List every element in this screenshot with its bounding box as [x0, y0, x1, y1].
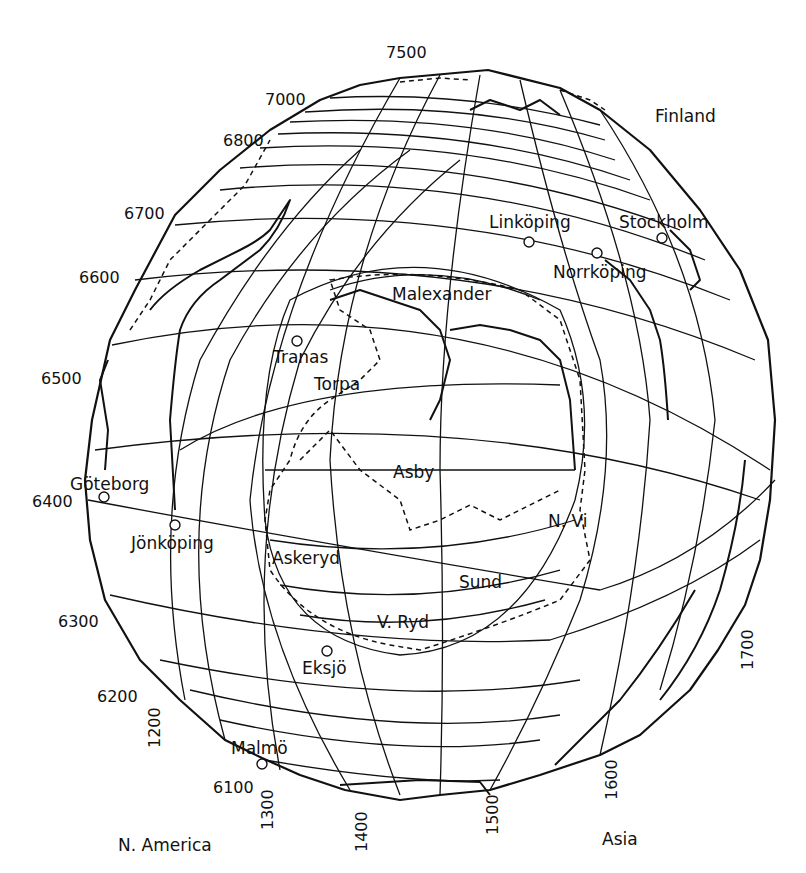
place-label-sund: Sund [459, 572, 502, 592]
town-marker-malmo [257, 759, 267, 769]
easting-label-1200: 1200 [145, 707, 164, 748]
place-label-stockholm: Stockholm [619, 212, 709, 232]
place-label-askeryd: Askeryd [272, 548, 340, 568]
place-label-jonkoping: Jönköping [130, 533, 214, 553]
place-label-torpa: Torpa [313, 374, 360, 394]
northing-label-6300: 6300 [58, 612, 99, 631]
northing-label-6800: 6800 [223, 131, 264, 150]
place-label-v-ryd: V. Ryd [377, 612, 429, 632]
town-marker-tranas [292, 336, 302, 346]
place-label-linkoping: Linköping [489, 212, 571, 232]
northing-label-6700: 6700 [124, 204, 165, 223]
place-label-malmo: Malmö [231, 738, 288, 758]
region-label-north-america: N. America [118, 835, 212, 855]
place-label-eksjo: Eksjö [302, 658, 347, 678]
northing-label-7500: 7500 [386, 43, 427, 62]
town-marker-stockholm [657, 233, 667, 243]
town-marker-eksjo [322, 646, 332, 656]
northing-label-6500: 6500 [41, 369, 82, 388]
northing-label-7000: 7000 [265, 90, 306, 109]
inner-grid-lines [180, 267, 585, 655]
easting-label-1700: 1700 [738, 629, 757, 670]
northing-label-6100: 6100 [213, 778, 254, 797]
easting-label-1600: 1600 [602, 759, 621, 800]
easting-label-1400: 1400 [352, 811, 371, 852]
easting-label-1500: 1500 [483, 794, 502, 835]
northing-label-6400: 6400 [32, 492, 73, 511]
town-marker-norrkoping [592, 248, 602, 258]
town-marker-linkoping [524, 237, 534, 247]
place-label-goteborg: Göteborg [70, 474, 149, 494]
map-outer-boundary [85, 70, 775, 800]
easting-label-1300: 1300 [258, 789, 277, 830]
place-label-malexander: Malexander [392, 284, 491, 304]
region-label-asia: Asia [602, 829, 638, 849]
place-label-tranas: Tranas [272, 347, 328, 367]
distorted-map-figure: Finland N. America Asia 7500 7000 6800 6… [0, 0, 806, 873]
place-label-norrkoping: Norrköping [553, 262, 647, 282]
northing-label-6200: 6200 [97, 687, 138, 706]
place-label-n-vi: N. Vi [548, 511, 588, 531]
region-label-finland: Finland [655, 106, 716, 126]
northing-label-6600: 6600 [79, 268, 120, 287]
place-label-asby: Asby [393, 462, 434, 482]
dashed-boundary [130, 78, 605, 650]
town-marker-jonkoping [170, 520, 180, 530]
